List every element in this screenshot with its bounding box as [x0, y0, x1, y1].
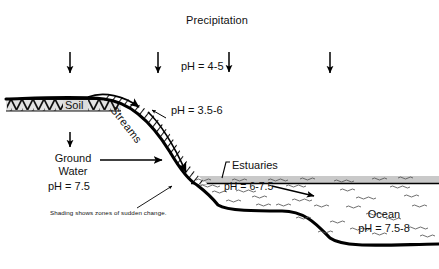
caption-leader: [137, 186, 172, 208]
acid-rain-ph-diagram: Precipitation pH = 4-5 Soil Streams pH =…: [0, 0, 439, 269]
estuaries-leader: [222, 162, 230, 178]
ground-water-ph-label: pH = 7.5: [48, 180, 90, 193]
soil-layer: [6, 99, 121, 111]
estuaries-label: Estuaries: [232, 159, 278, 172]
ground-water-label-line2: Water: [59, 165, 88, 178]
ocean-label: Ocean: [368, 208, 400, 221]
soil-label: Soil: [65, 99, 83, 112]
ground-water-label-line1: Ground: [55, 152, 92, 165]
ocean-ph-label: pH = 7.5-8: [358, 222, 410, 235]
precipitation-ph-label: pH = 4-5: [181, 60, 224, 73]
estuaries-ph-label: pH = 6-7.5: [224, 180, 273, 192]
shading-caption: Shading shows zones of sudden change.: [50, 209, 167, 216]
page-title: Precipitation: [186, 14, 248, 27]
estuaries-ph-arrow: [272, 186, 314, 196]
streams-ph-label: pH = 3.5-6: [171, 104, 223, 117]
